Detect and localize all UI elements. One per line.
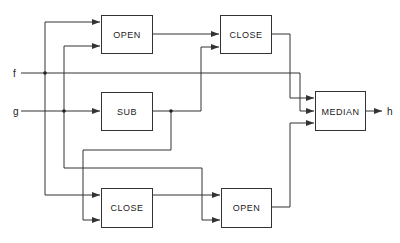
block-label: CLOSE — [229, 30, 262, 40]
junction-dot — [43, 71, 47, 75]
block-open-bottom: OPEN — [222, 189, 272, 228]
block-sub: SUB — [102, 93, 153, 131]
wire-g-to-open-top — [64, 46, 100, 111]
wire-sub-to-close-top — [152, 47, 219, 111]
block-label: OPEN — [233, 203, 261, 213]
wire-f-to-open-top — [45, 22, 100, 73]
block-label: SUB — [117, 107, 137, 117]
input-label-g: g — [13, 106, 19, 117]
block-label: MEDIAN — [321, 107, 359, 117]
block-close-top: CLOSE — [221, 16, 272, 54]
block-open-top: OPEN — [102, 16, 153, 54]
wire-f-to-close-bottom — [45, 73, 100, 195]
wire-f-to-median — [21, 73, 314, 111]
output-label-h: h — [387, 106, 393, 117]
wire-close-top-to-median — [271, 34, 314, 98]
block-label: OPEN — [113, 30, 141, 40]
block-median: MEDIAN — [316, 92, 366, 131]
junction-dot — [62, 109, 66, 113]
block-close-bottom: CLOSE — [102, 189, 153, 228]
block-diagram: f g h OPEN CLOSE SUB MEDIAN CLOSE — [0, 0, 400, 243]
input-label-f: f — [13, 68, 16, 79]
junction-dot — [169, 109, 173, 113]
block-label: CLOSE — [110, 203, 143, 213]
wire-open-bottom-to-median — [271, 123, 314, 207]
